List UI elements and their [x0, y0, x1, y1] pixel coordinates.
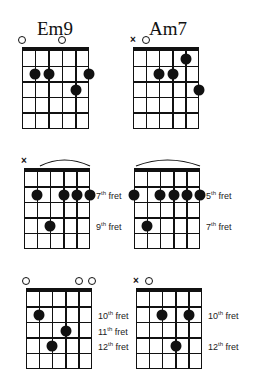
muted-string-icon: × [21, 156, 27, 166]
finger-dot [168, 190, 179, 201]
fret-line [23, 97, 88, 99]
string-line [39, 292, 41, 368]
fret-word: fret [223, 341, 239, 351]
string-line [48, 51, 50, 128]
fret-line [137, 306, 201, 308]
fret-line [135, 217, 199, 219]
finger-dot [170, 340, 181, 351]
fret-line [134, 112, 198, 114]
fret-label: 10th fret [98, 310, 129, 321]
open-string-icon [145, 277, 153, 285]
string-line [78, 292, 80, 368]
string-line [175, 292, 177, 368]
fret-line [23, 66, 88, 68]
finger-dot [58, 190, 69, 201]
string-line [37, 172, 39, 248]
fret-word: fret [216, 191, 232, 201]
fret-line [27, 306, 91, 308]
string-line [173, 172, 175, 248]
fret-word: fret [223, 311, 239, 321]
fret-label: 11th fret [98, 325, 128, 336]
fret-word: fret [106, 221, 122, 231]
open-string-icon [88, 277, 96, 285]
fret-label: 10th fret [208, 310, 239, 321]
fret-line [25, 202, 89, 204]
fret-line [135, 186, 199, 188]
string-line [146, 51, 148, 128]
fret-line [134, 81, 198, 83]
fret-line [27, 322, 91, 324]
finger-dot [71, 190, 82, 201]
string-line [52, 292, 54, 368]
fretboard-grid [134, 168, 200, 249]
finger-dot [167, 69, 178, 80]
string-line [159, 51, 161, 128]
fret-word: fret [113, 341, 129, 351]
fret-line [137, 337, 201, 339]
string-line [188, 292, 190, 368]
open-string-icon [58, 36, 66, 44]
open-string-icon [142, 36, 150, 44]
fret-label: 9th fret [96, 220, 122, 231]
fret-word: fret [113, 311, 129, 321]
finger-dot [181, 190, 192, 201]
string-line [50, 172, 52, 248]
fret-line [25, 233, 89, 235]
finger-dot [154, 69, 165, 80]
fret-label: 5th fret [206, 190, 232, 201]
finger-dot [180, 53, 191, 64]
fret-line [25, 217, 89, 219]
string-line [186, 172, 188, 248]
open-string-icon [18, 36, 26, 44]
fret-line [23, 81, 88, 83]
string-line [172, 51, 174, 128]
finger-dot [129, 190, 140, 201]
fret-line [137, 353, 201, 355]
open-string-icon [22, 277, 30, 285]
fret-line [25, 186, 89, 188]
finger-dot [142, 220, 153, 231]
barre-arc-icon [38, 156, 108, 168]
fret-line [134, 66, 198, 68]
fretboard-grid [26, 288, 92, 369]
string-line [35, 51, 37, 128]
open-string-icon [75, 277, 83, 285]
finger-dot [155, 190, 166, 201]
string-line [162, 292, 164, 368]
muted-string-icon: × [130, 35, 136, 45]
fret-number: 12 [208, 341, 218, 351]
fret-line [134, 97, 198, 99]
string-line [160, 172, 162, 248]
fret-label: 7th fret [96, 190, 122, 201]
finger-dot [45, 220, 56, 231]
string-line [62, 51, 64, 128]
finger-dot [34, 310, 45, 321]
fret-number: 12 [98, 341, 108, 351]
fret-number: 10 [98, 311, 108, 321]
string-line [63, 172, 65, 248]
chord-name: Am7 [149, 18, 187, 40]
barre-arc-icon [134, 156, 204, 168]
finger-dot [43, 69, 54, 80]
finger-dot [60, 325, 71, 336]
finger-dot [30, 69, 41, 80]
finger-dot [195, 190, 206, 201]
fret-word: fret [216, 221, 232, 231]
finger-dot [157, 310, 168, 321]
fret-label: 12th fret [208, 340, 239, 351]
finger-dot [194, 85, 205, 96]
string-line [149, 292, 151, 368]
fret-label: 7th fret [206, 220, 232, 231]
finger-dot [84, 69, 95, 80]
fret-label: 12th fret [98, 340, 129, 351]
fret-line [137, 322, 201, 324]
fret-line [27, 353, 91, 355]
fretboard-grid [24, 168, 90, 249]
fret-line [135, 202, 199, 204]
finger-dot [85, 190, 96, 201]
chord-name: Em9 [37, 18, 73, 40]
fretboard-grid [136, 288, 202, 369]
finger-dot [70, 85, 81, 96]
finger-dot [183, 310, 194, 321]
finger-dot [47, 340, 58, 351]
